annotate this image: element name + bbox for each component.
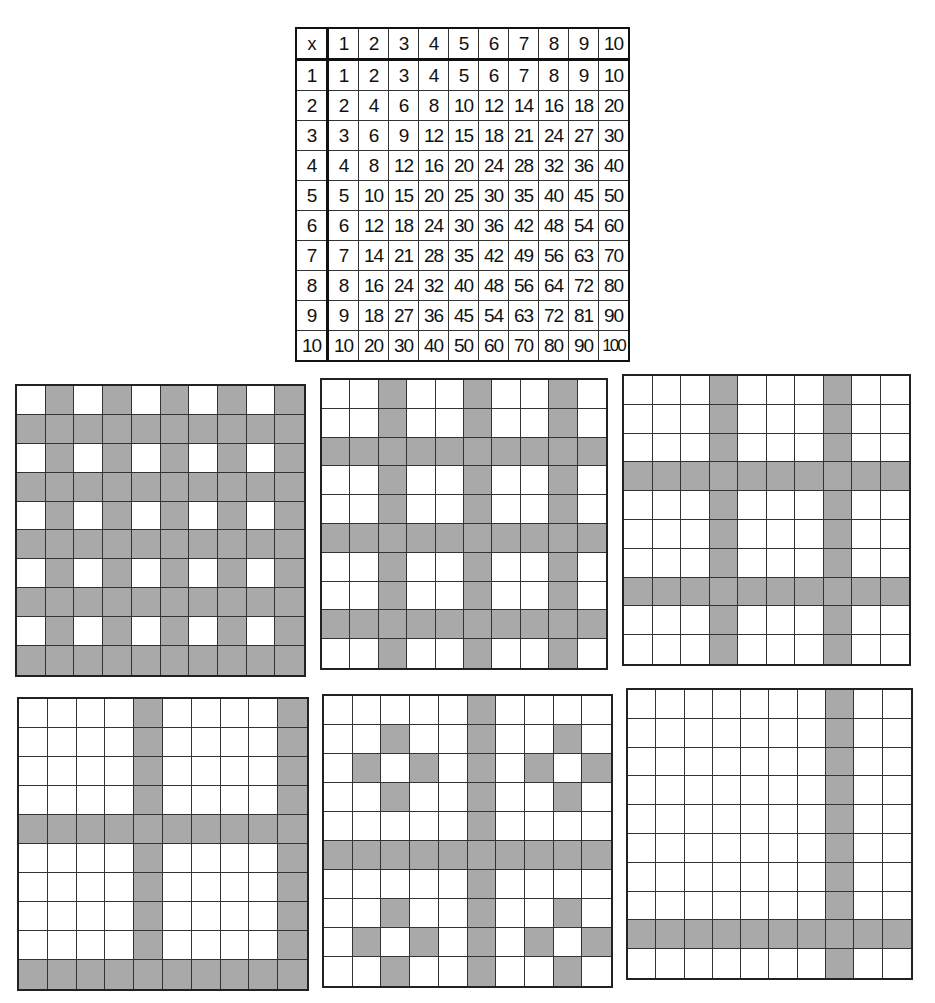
grid-cell [105, 699, 134, 728]
grid-cell [192, 902, 221, 931]
grid-cell-shaded [824, 635, 853, 664]
grid-cell-shaded [132, 646, 161, 675]
grid-cell [496, 783, 525, 812]
grid-cell-shaded [767, 578, 796, 607]
grid-cell [521, 466, 549, 495]
grid-cell [628, 690, 656, 719]
product-cell: 2 [359, 60, 389, 91]
product-cell: 56 [539, 241, 569, 271]
grid-cell [163, 873, 192, 902]
grid-cell [653, 434, 682, 463]
grid-cell-shaded [468, 783, 497, 812]
grid-cell [105, 931, 134, 960]
grid-cell [681, 520, 710, 549]
grid-cell [496, 870, 525, 899]
grid-cell-shaded [826, 834, 854, 863]
grid-cell-shaded [353, 928, 382, 957]
table-row: 99182736455463728190 [296, 301, 629, 331]
grid-cell [436, 582, 464, 611]
grid-cell-shaded [350, 524, 378, 553]
product-cell: 7 [328, 241, 359, 271]
grid-cell [624, 520, 653, 549]
grid-cell [496, 812, 525, 841]
grid-cell [795, 491, 824, 520]
grid-cell [439, 899, 468, 928]
grid-cell [324, 812, 353, 841]
grid-cell [653, 606, 682, 635]
product-cell: 70 [599, 241, 630, 271]
product-cell: 45 [449, 301, 479, 331]
product-cell: 6 [389, 91, 419, 121]
grid-cell [353, 870, 382, 899]
product-cell: 12 [479, 91, 509, 121]
product-cell: 18 [359, 301, 389, 331]
product-cell: 7 [509, 60, 539, 91]
grid-cell [19, 902, 48, 931]
grid-cell-shaded [738, 578, 767, 607]
grid-cell-shaded [278, 757, 307, 786]
grid-cell-shaded [17, 588, 46, 617]
grid-cell [795, 434, 824, 463]
grid-cell [713, 949, 741, 978]
grid-cell-shaded [582, 928, 611, 957]
grid-cell [769, 949, 797, 978]
grid-cell-shaded [549, 438, 577, 467]
grid-cell-shaded [17, 646, 46, 675]
grid-cell [554, 928, 583, 957]
grid-cell [19, 844, 48, 873]
grid-cell [74, 386, 103, 415]
grid-cell-shaded [554, 725, 583, 754]
grid-cell [881, 606, 910, 635]
grid-cell-shaded [322, 524, 350, 553]
grid-cell-shaded [741, 920, 769, 949]
product-cell: 14 [509, 91, 539, 121]
grid-cell [741, 892, 769, 921]
grid-cell [192, 728, 221, 757]
product-cell: 35 [449, 241, 479, 271]
grid-cell-shaded [379, 582, 407, 611]
grid-cell-shaded [628, 920, 656, 949]
product-cell: 15 [449, 121, 479, 151]
grid-cell-shaded [218, 444, 247, 473]
grid-cell [324, 928, 353, 957]
product-cell: 9 [328, 301, 359, 331]
grid-cell [439, 754, 468, 783]
grid-cell-shaded [46, 444, 75, 473]
product-cell: 8 [328, 271, 359, 301]
grid-cell-shaded [407, 438, 435, 467]
product-cell: 12 [359, 211, 389, 241]
grid-cell-shaded [218, 588, 247, 617]
grid-cell-shaded [189, 646, 218, 675]
product-cell: 64 [539, 271, 569, 301]
grid-cell [628, 805, 656, 834]
product-cell: 24 [479, 151, 509, 181]
grid-cell [769, 892, 797, 921]
grid-cell-shaded [464, 639, 492, 668]
grid-cell-shaded [379, 466, 407, 495]
grid-cell [105, 786, 134, 815]
grid-cell-shaded [161, 646, 190, 675]
grid-cell [439, 928, 468, 957]
grid-cell [48, 699, 77, 728]
grid-cell-shaded [656, 920, 684, 949]
grid-cell-shaded [103, 386, 132, 415]
grid-cell-shaded [826, 719, 854, 748]
grid-cell-shaded [134, 931, 163, 960]
grid-cell-shaded [379, 380, 407, 409]
grid-cell [48, 844, 77, 873]
grid-cell [407, 553, 435, 582]
grid-cell [881, 549, 910, 578]
grid-cell [192, 844, 221, 873]
product-cell: 60 [599, 211, 630, 241]
grid-cell-shaded [103, 646, 132, 675]
grid-cell [681, 376, 710, 405]
grid-cell [656, 834, 684, 863]
product-cell: 28 [509, 151, 539, 181]
product-cell: 70 [509, 331, 539, 362]
table-row: 10102030405060708090100 [296, 331, 629, 362]
grid-cell-shaded [468, 928, 497, 957]
grid-cell [741, 949, 769, 978]
grid-cell-shaded [322, 610, 350, 639]
grid-cell [322, 639, 350, 668]
grid-cell-shaded [324, 841, 353, 870]
